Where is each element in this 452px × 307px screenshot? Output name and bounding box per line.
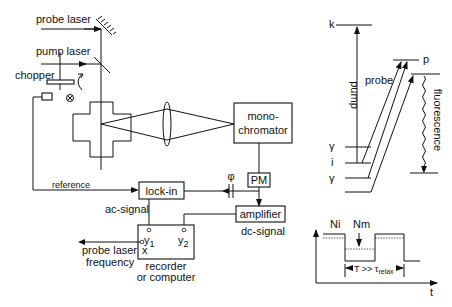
amplifier-label: amplifier [240, 208, 282, 220]
chopper-label: chopper [15, 69, 55, 81]
x-input-label: x [142, 244, 148, 256]
chopper-blade [47, 80, 74, 84]
monochromator-label-1: mono- [247, 110, 279, 122]
level-gamma-bottom-label: γ [329, 172, 335, 184]
diagram: probe laser pump laser chopper [0, 0, 452, 307]
probe-laser-label: probe laser [36, 13, 91, 25]
fluorescence-decay [423, 76, 426, 172]
experimental-setup: probe laser pump laser chopper [15, 13, 292, 283]
monochromator-label-2: chromator [238, 124, 288, 136]
reference-label: reference [52, 180, 90, 190]
lock-in-label: lock-in [146, 185, 178, 197]
dc-signal-label: dc-signal [241, 225, 285, 237]
probe-transition-label: probe [365, 74, 393, 86]
pump-transition-label: pump [349, 81, 361, 109]
ac-signal-label: ac-signal [105, 203, 149, 215]
level-i-label: i [331, 156, 333, 168]
period-label: T >> τrelax [354, 264, 394, 275]
energy-level-diagram: k p γ i γ pump probe fluorescence [329, 18, 444, 192]
beam-splitter-icon [94, 57, 110, 73]
recorder-label-2: or computer [137, 271, 196, 283]
population-timing-graph: t Ni Nm T >> τrelax [316, 218, 437, 298]
pm-label: PM [251, 174, 268, 186]
probe-frequency-label-2: frequency [86, 256, 135, 268]
monochromator [234, 103, 292, 143]
level-k-label: k [329, 18, 335, 30]
level-p-label: p [423, 53, 429, 65]
mirror-icon [96, 16, 116, 35]
level-gamma-top-label: γ [329, 140, 335, 152]
phase-label: φ [227, 170, 234, 182]
fluorescence-label: fluorescence [432, 89, 444, 151]
field-into-page-icon [67, 95, 74, 102]
probe-frequency-label-1: probe laser [82, 244, 137, 256]
t-axis-label: t [430, 286, 433, 298]
pump-laser-label: pump laser [36, 45, 91, 57]
photodiode [42, 93, 52, 100]
ni-label: Ni [330, 218, 340, 230]
nm-label: Nm [353, 218, 370, 230]
